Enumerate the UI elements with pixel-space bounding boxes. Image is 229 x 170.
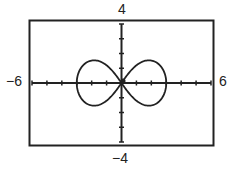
origin-point — [121, 79, 126, 84]
ymin-label: −4 — [112, 151, 128, 165]
ymax-label: 4 — [118, 2, 126, 16]
xmin-label: −6 — [6, 74, 22, 88]
xmax-label: 6 — [219, 74, 227, 88]
graph-canvas — [0, 0, 229, 170]
